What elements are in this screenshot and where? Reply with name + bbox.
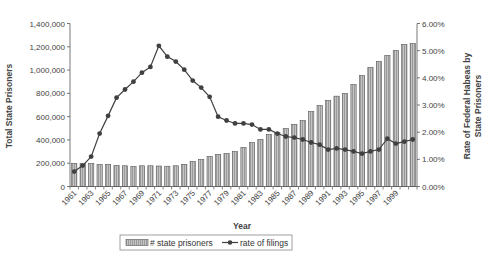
bar-1966 (114, 166, 119, 187)
rate-marker-1989 (309, 140, 314, 145)
rate-marker-1994 (351, 149, 356, 154)
bar-1996 (368, 68, 373, 187)
bar-1973 (173, 166, 178, 187)
x-tick-label: 1971 (144, 188, 163, 207)
rate-marker-2000 (402, 139, 407, 144)
left-tick-label: 400,000 (36, 136, 65, 145)
rate-marker-1980 (233, 121, 238, 126)
x-tick-label: 1975 (178, 188, 197, 207)
rate-marker-1966 (114, 95, 119, 100)
bar-1988 (300, 120, 305, 186)
bar-1993 (342, 93, 347, 186)
right-tick-label: 2.00% (422, 128, 445, 137)
bar-1985 (275, 132, 280, 186)
bar-1970 (148, 166, 153, 187)
x-tick-label: 1969 (127, 188, 146, 207)
bar-2000 (402, 44, 407, 186)
rate-marker-1979 (224, 118, 229, 123)
rate-marker-1981 (241, 121, 246, 126)
right-axis-title-line1: Rate of Federal Habeas by (462, 53, 472, 160)
rate-marker-1992 (334, 146, 339, 151)
bar-1992 (334, 96, 339, 186)
rate-marker-1965 (106, 113, 111, 118)
chart-canvas: 0200,000400,000600,000800,0001,000,0001,… (0, 0, 492, 269)
left-y-axis: 0200,000400,000600,000800,0001,000,0001,… (29, 20, 70, 192)
legend-marker-icon (228, 240, 233, 245)
rate-marker-1977 (207, 94, 212, 99)
rate-marker-1999 (393, 141, 398, 146)
bar-1981 (241, 147, 246, 186)
left-tick-label: 0 (61, 183, 66, 192)
bar-1964 (97, 164, 102, 186)
right-tick-label: 0.00% (422, 183, 445, 192)
rate-marker-1976 (199, 85, 204, 90)
bar-1963 (89, 164, 94, 187)
bar-1967 (122, 166, 127, 187)
rate-marker-1975 (190, 78, 195, 83)
bar-1997 (376, 61, 381, 186)
rate-marker-1974 (182, 67, 187, 72)
rate-marker-1988 (300, 137, 305, 142)
rate-marker-1985 (275, 131, 280, 136)
bar-1975 (190, 161, 195, 186)
rate-marker-1995 (360, 151, 365, 156)
rate-marker-1984 (266, 127, 271, 132)
bar-1982 (249, 142, 254, 186)
x-tick-label: 1985 (263, 188, 282, 207)
left-tick-label: 1,000,000 (29, 66, 65, 75)
x-tick-label: 1963 (77, 188, 96, 207)
bar-1991 (326, 100, 331, 186)
x-tick-label: 1997 (364, 188, 383, 207)
right-tick-label: 5.00% (422, 47, 445, 56)
right-tick-label: 3.00% (422, 101, 445, 110)
bar-1999 (393, 51, 398, 187)
x-tick-label: 1965 (94, 188, 113, 207)
right-axis-title: Rate of Federal Habeas by State Prisoner… (462, 53, 483, 160)
rate-marker-1968 (131, 79, 136, 84)
left-tick-label: 1,400,000 (29, 20, 65, 29)
bar-1980 (232, 152, 237, 187)
chart: 0200,000400,000600,000800,0001,000,0001,… (0, 0, 492, 269)
rate-marker-1982 (250, 122, 255, 127)
x-tick-label: 1995 (347, 188, 366, 207)
x-tick-label: 1989 (297, 188, 316, 207)
right-tick-label: 1.00% (422, 155, 445, 164)
rate-marker-2001 (410, 137, 415, 142)
left-tick-label: 200,000 (36, 159, 65, 168)
right-tick-label: 6.00% (422, 20, 445, 29)
left-tick-label: 800,000 (36, 89, 65, 98)
bar-1984 (266, 134, 271, 186)
rate-marker-1978 (216, 114, 221, 119)
rate-marker-1987 (292, 135, 297, 140)
bar-1976 (199, 159, 204, 186)
legend-bar-swatch-icon (126, 240, 148, 246)
rate-marker-1967 (123, 87, 128, 92)
x-tick-label: 1991 (314, 188, 333, 207)
rate-marker-1969 (140, 70, 145, 75)
rate-marker-1962 (80, 163, 85, 168)
bar-1998 (385, 56, 390, 187)
rate-marker-1991 (326, 147, 331, 152)
legend: # state prisoners rate of filings (120, 235, 292, 250)
bar-1972 (165, 166, 170, 186)
x-tick-label: 1987 (280, 188, 299, 207)
bar-1994 (351, 85, 356, 187)
x-axis-title: Year (233, 221, 252, 231)
rate-marker-1963 (89, 154, 94, 159)
x-tick-label: 1973 (161, 188, 180, 207)
x-tick-label: 1999 (381, 188, 400, 207)
rate-marker-1993 (343, 147, 348, 152)
bar-1989 (309, 112, 314, 187)
right-y-axis: 0.00%1.00%2.00%3.00%4.00%5.00%6.00% (417, 20, 445, 192)
x-tick-label: 1977 (195, 188, 214, 207)
right-axis-title-line2: State Prisoners (473, 75, 483, 138)
rate-marker-1961 (72, 169, 77, 174)
rate-marker-1971 (156, 43, 161, 48)
rate-marker-1973 (173, 59, 178, 64)
legend-label-rate-of-filings: rate of filings (240, 238, 288, 248)
bar-2001 (410, 44, 415, 187)
rate-marker-1970 (148, 65, 153, 70)
rate-marker-1996 (368, 149, 373, 154)
x-tick-label: 1967 (110, 188, 129, 207)
x-tick-label: 1981 (229, 188, 248, 207)
